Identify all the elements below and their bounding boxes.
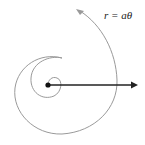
origin-point (45, 82, 50, 87)
spiral-outer-arc (15, 11, 117, 134)
spiral-arrowhead-icon (76, 9, 84, 15)
spiral-diagram: r = aθ (0, 0, 145, 145)
spiral-graphic (0, 0, 145, 145)
equation-label: r = aθ (104, 9, 132, 21)
archimedean-spiral-curve (31, 57, 62, 97)
polar-axis-arrowhead-icon (131, 82, 138, 89)
